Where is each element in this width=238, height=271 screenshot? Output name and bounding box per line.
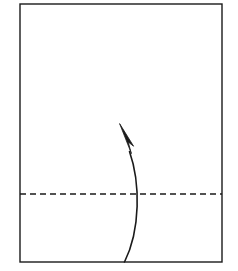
diagram-canvas xyxy=(0,0,238,271)
origami-fold-diagram xyxy=(0,0,238,271)
paper-sheet xyxy=(20,4,222,262)
